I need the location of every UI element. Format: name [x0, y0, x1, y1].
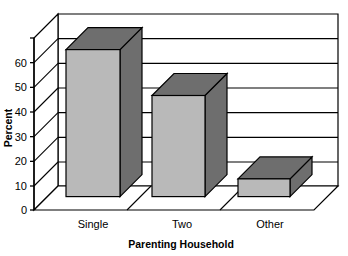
- x-axis-title: Parenting Household: [128, 238, 234, 250]
- bar-single: [66, 28, 142, 197]
- chart-canvas: 0 10 20 30 40 50 60 Percent Single Two O…: [0, 0, 348, 256]
- y-tick-label-30: 30: [15, 131, 27, 143]
- y-tick-label-0: 0: [21, 204, 27, 216]
- y-axis-title: Percent: [2, 108, 14, 147]
- plot-left-wall: [34, 14, 58, 210]
- bar-chart-3d: 0 10 20 30 40 50 60 Percent Single Two O…: [0, 0, 348, 256]
- y-tick-label-20: 20: [15, 155, 27, 167]
- bar-two: [152, 74, 227, 197]
- x-category-label-two: Two: [172, 218, 192, 230]
- y-tick-label-40: 40: [15, 106, 27, 118]
- y-tick-label-60: 60: [15, 57, 27, 69]
- x-category-label-other: Other: [256, 218, 284, 230]
- x-category-label-single: Single: [78, 218, 109, 230]
- y-tick-label-10: 10: [15, 180, 27, 192]
- y-tick-label-50: 50: [15, 81, 27, 93]
